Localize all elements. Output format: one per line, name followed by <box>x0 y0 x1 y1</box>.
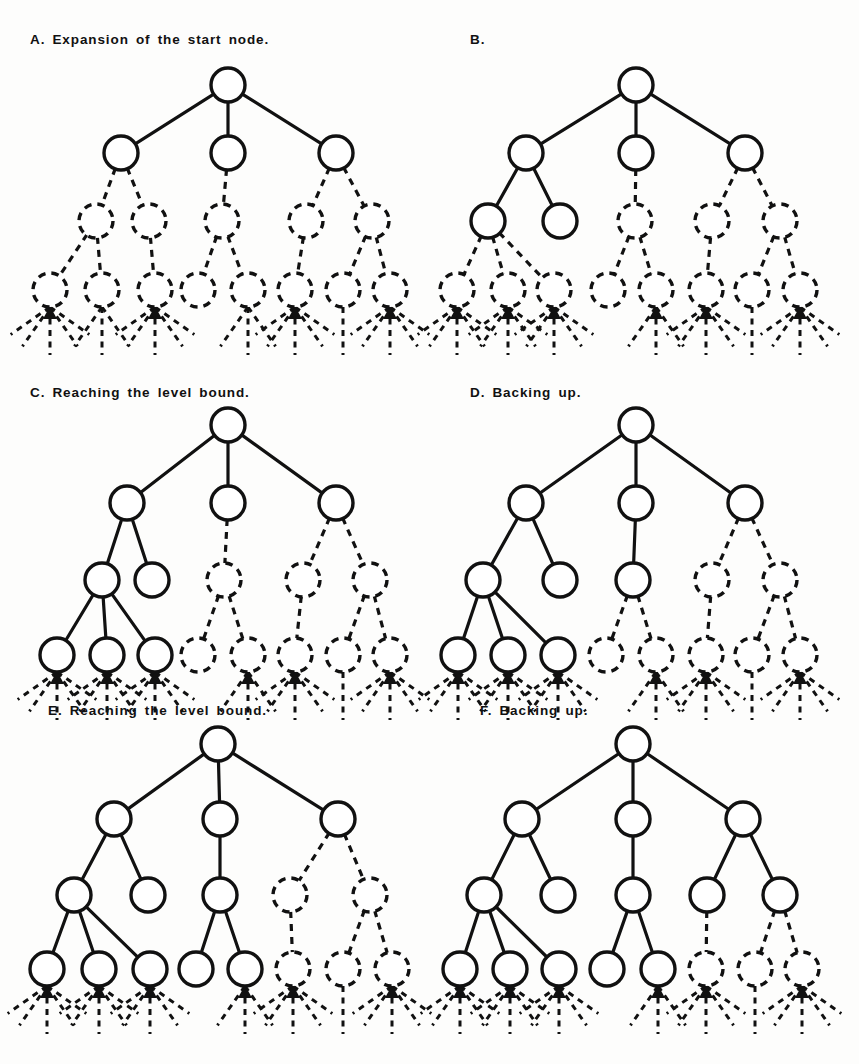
tree-edge-solid <box>488 595 503 640</box>
tree-edge-dashed <box>719 167 738 206</box>
frontier-spoke <box>99 986 127 1025</box>
tree-node-solid <box>138 638 172 672</box>
frontier-spoke <box>706 672 734 711</box>
tree-edge-dashed <box>343 167 364 207</box>
frontier-spoke <box>800 672 828 711</box>
frontier-spoke <box>155 307 183 346</box>
tree-node-solid <box>542 952 576 986</box>
tree-node-solid <box>30 952 64 986</box>
frontier-spoke <box>628 672 656 711</box>
tree-edge-dashed <box>758 236 774 275</box>
frontier-spoke <box>122 986 150 1025</box>
frontier-spoke <box>678 986 706 1025</box>
tree-edge-dashed <box>203 236 216 275</box>
tree-node-solid <box>505 802 539 836</box>
tree-node-solid <box>491 638 525 672</box>
tree-node-dashed <box>639 638 673 672</box>
frontier-spoke <box>390 672 429 700</box>
tree-edge-dashed <box>342 518 363 566</box>
tree-edge-dashed <box>344 834 364 881</box>
frontier-spoke <box>220 307 248 346</box>
frontier-spoke <box>429 307 457 346</box>
tree-node-dashed <box>373 638 407 672</box>
tree-node-solid <box>135 563 169 597</box>
tree-edge-solid <box>241 434 323 493</box>
frontier-spoke <box>150 986 178 1025</box>
frontier-spoke <box>390 307 429 335</box>
frontier-layer <box>421 985 842 1034</box>
frontier-spoke <box>678 672 706 711</box>
tree-node-solid <box>85 563 119 597</box>
panel-a <box>0 55 430 385</box>
tree-node-dashed <box>79 204 113 238</box>
tree-node-dashed <box>138 273 172 307</box>
tree-node-dashed <box>289 204 323 238</box>
tree-edge-dashed <box>312 168 329 207</box>
frontier-spoke <box>265 986 293 1025</box>
frontier-spoke <box>678 307 706 346</box>
tree-node-dashed <box>639 273 673 307</box>
frontier-spoke <box>295 672 323 711</box>
frontier-spoke <box>432 986 460 1025</box>
tree-edge-solid <box>79 910 94 954</box>
tree-node-dashed <box>278 273 312 307</box>
tree-node-solid <box>728 136 762 170</box>
frontier-spoke <box>11 307 50 335</box>
frontier-spoke <box>150 986 189 1014</box>
tree-edge-solid <box>107 518 122 565</box>
tree-node-solid <box>509 486 543 520</box>
frontier-spoke <box>558 672 597 700</box>
tree-edge-solid <box>529 833 551 880</box>
frontier-spoke <box>295 307 323 346</box>
tree-node-solid <box>763 878 797 912</box>
tree-node-solid <box>211 486 245 520</box>
tree-node-dashed <box>205 204 239 238</box>
frontier-layer <box>11 306 430 355</box>
tree-edge-dashed <box>203 595 219 640</box>
tree-node-solid <box>104 136 138 170</box>
tree-edge-dashed <box>299 833 330 882</box>
tree-node-solid <box>541 878 575 912</box>
tree-node-dashed <box>231 638 265 672</box>
tree-node-solid <box>203 878 237 912</box>
frontier-spoke <box>155 672 194 700</box>
frontier-spoke <box>362 307 390 346</box>
tree-node-solid <box>90 638 124 672</box>
frontier-spoke <box>293 986 321 1025</box>
tree-edge-dashed <box>349 236 366 275</box>
tree-edge-dashed <box>348 595 364 640</box>
tree-edge-solid <box>491 833 515 880</box>
tree-node-solid <box>616 802 650 836</box>
tree-edge-solid <box>463 595 478 640</box>
frontier-spoke <box>295 672 334 700</box>
tree-edge-solid <box>218 760 219 803</box>
tree-edge-dashed <box>374 595 386 639</box>
tree-edge-solid <box>232 752 325 810</box>
tree-node-solid <box>616 878 650 912</box>
panel-label-c: C. Reaching the level bound. <box>30 385 250 400</box>
frontier-spoke <box>480 307 508 346</box>
frontier-spoke <box>362 672 390 711</box>
tree-edge-solid <box>65 594 94 642</box>
frontier-spoke <box>457 307 485 346</box>
frontier-spoke <box>267 672 295 711</box>
panel-c <box>0 405 430 735</box>
tree-node-dashed <box>355 204 389 238</box>
tree-edge-solid <box>242 94 323 145</box>
tree-edge-solid <box>650 93 732 144</box>
frontier-spoke <box>508 307 547 335</box>
frontier-spoke <box>18 672 57 700</box>
tree-node-solid <box>616 563 650 597</box>
tree-node-solid <box>509 136 543 170</box>
frontier-spoke <box>802 986 830 1025</box>
tree-diagram-b <box>430 55 859 395</box>
frontier-spoke <box>706 307 745 335</box>
tree-edge-solid <box>52 910 68 954</box>
tree-node-dashed <box>33 273 67 307</box>
tree-node-dashed <box>132 204 166 238</box>
frontier-spoke <box>772 307 800 346</box>
frontier-spoke <box>763 986 802 1014</box>
frontier-spoke <box>392 986 431 1014</box>
tree-diagram-d <box>430 405 859 745</box>
tree-node-solid <box>203 802 237 836</box>
